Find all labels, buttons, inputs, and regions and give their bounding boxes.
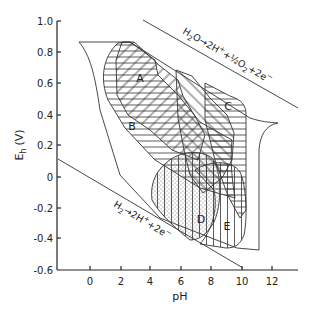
y-tick-label: 0.8	[37, 47, 53, 58]
y-axis-title: Eh(V)	[13, 129, 28, 160]
x-tick-label: 8	[208, 276, 214, 287]
region-label-a: A	[136, 72, 144, 85]
y-tick-label: -0.4	[33, 233, 53, 244]
x-tick-label: 4	[147, 276, 153, 287]
region-label-b: B	[128, 120, 136, 133]
region-label-e: E	[224, 220, 231, 233]
y-axis: 1.0 0.8 0.6 0.4 0.2 0 -0.2 -0.4 -0.6	[33, 16, 61, 276]
y-tick-label: -0.6	[33, 265, 53, 276]
region-label-d: D	[197, 213, 205, 226]
region-label-c: C	[224, 100, 232, 113]
y-tick-label: 1.0	[37, 16, 53, 27]
x-tick-label: 6	[178, 276, 184, 287]
y-tick-label: 0	[47, 172, 53, 183]
x-axis-title: pH	[172, 290, 187, 303]
svg-text:Eh(V): Eh(V)	[13, 129, 28, 160]
x-tick-label: 2	[118, 276, 124, 287]
y-tick-label: 0.6	[37, 78, 53, 89]
x-tick-label: 12	[266, 276, 279, 287]
y-tick-label: -0.2	[33, 203, 53, 214]
y-tick-label: 0.2	[37, 140, 53, 151]
y-tick-label: 0.4	[37, 110, 53, 121]
x-axis: 0 2 4 6 8 10 12 pH	[57, 266, 298, 303]
eh-ph-diagram: 1.0 0.8 0.6 0.4 0.2 0 -0.2 -0.4 -0.6 Eh(…	[0, 0, 315, 311]
x-tick-label: 0	[87, 276, 93, 287]
x-tick-label: 10	[236, 276, 249, 287]
